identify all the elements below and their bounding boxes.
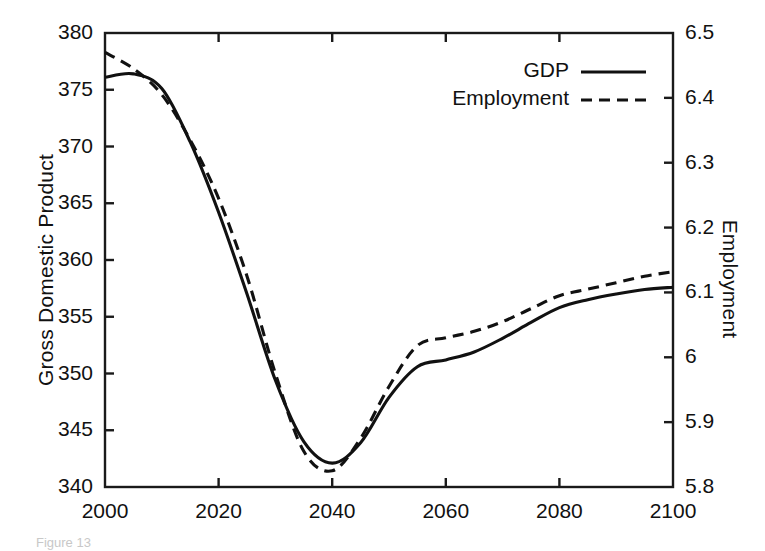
chart-figure: Gross Domestic Product Employment 340345… — [0, 0, 765, 551]
plot-area — [0, 0, 765, 551]
legend-swatches — [581, 72, 646, 100]
series-line-employment — [105, 52, 673, 471]
caption-ghost-text: Figure 13 — [36, 535, 91, 550]
series-line-gdp — [105, 73, 673, 463]
data-series — [105, 52, 673, 471]
